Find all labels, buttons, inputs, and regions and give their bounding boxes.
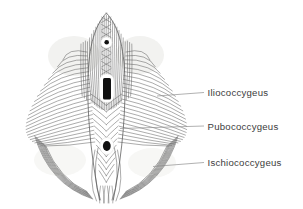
label-ischiococcygeus: Ischiococcygeus: [208, 157, 282, 168]
vaginal-opening: [103, 78, 111, 100]
label-iliococcygeus: Iliococcygeus: [208, 87, 269, 98]
figure-canvas: Iliococcygeus Pubococcygeus Ischiococcyg…: [0, 0, 303, 209]
label-pubococcygeus: Pubococcygeus: [208, 121, 279, 132]
pelvic-floor-muscle-diagram: Iliococcygeus Pubococcygeus Ischiococcyg…: [0, 0, 303, 209]
leader-line-pubococcygeus: [120, 126, 204, 129]
anal-opening: [103, 141, 111, 151]
leader-line-iliococcygeus: [157, 93, 204, 97]
urethral-opening: [104, 40, 109, 45]
muscle-labels: Iliococcygeus Pubococcygeus Ischiococcyg…: [208, 87, 282, 169]
